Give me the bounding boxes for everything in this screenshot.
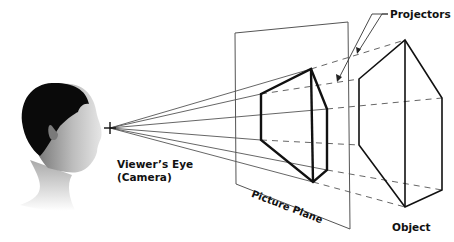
object-shape — [359, 40, 442, 207]
perspective-diagram — [0, 0, 454, 242]
viewer-head-icon — [20, 83, 102, 211]
object-label: Object — [392, 221, 430, 233]
viewers-eye-label-line1: Viewer’s Eye — [117, 158, 193, 171]
projectors-label: Projectors — [390, 8, 451, 20]
viewers-eye-label-line2: (Camera) — [117, 171, 193, 184]
diagram-canvas: Projectors Viewer’s Eye (Camera) Picture… — [0, 0, 454, 242]
projectors-callout-leaders — [338, 14, 388, 80]
viewers-eye-label: Viewer’s Eye (Camera) — [117, 158, 193, 184]
projected-image-shape — [261, 69, 327, 182]
projector-lines — [261, 40, 442, 207]
eye-point-crosshair-icon — [104, 122, 116, 134]
